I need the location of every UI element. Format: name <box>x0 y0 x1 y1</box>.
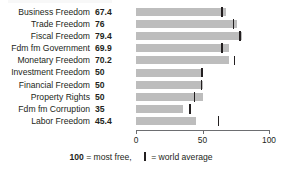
value-bar <box>136 69 203 77</box>
legend-most-free-value: 100 <box>69 152 83 162</box>
category-value: 70.2 <box>95 54 112 66</box>
chart-row: Labor Freedom45.4 <box>0 115 282 127</box>
category-label: Fdm fm Government <box>0 42 90 54</box>
chart-legend: 100 = most free, = world average <box>0 151 282 163</box>
category-label: Fiscal Freedom <box>0 30 90 42</box>
value-bar <box>136 20 237 28</box>
row-plot-area <box>136 66 269 78</box>
category-label: Property Rights <box>0 91 90 103</box>
world-average-tick <box>233 19 235 29</box>
world-average-tick <box>201 68 203 78</box>
world-average-tick <box>218 116 220 126</box>
row-plot-area <box>136 30 269 42</box>
category-value: 35 <box>95 103 105 115</box>
row-plot-area <box>136 103 269 115</box>
category-label: Business Freedom <box>0 6 90 18</box>
value-bar <box>136 44 229 52</box>
row-plot-area <box>136 42 269 54</box>
x-axis-tick-label: 100 <box>262 135 276 145</box>
cropped-title-artifact <box>8 0 112 3</box>
chart-row: Business Freedom67.4 <box>0 6 282 18</box>
value-bar <box>136 105 183 113</box>
category-value: 79.4 <box>95 30 112 42</box>
value-bar <box>136 117 196 125</box>
value-bar <box>136 8 226 16</box>
chart-row: Financial Freedom50 <box>0 79 282 91</box>
world-average-tick <box>221 7 223 17</box>
x-axis-tick <box>269 130 270 134</box>
value-bar <box>136 32 242 40</box>
row-plot-area <box>136 79 269 91</box>
category-label: Trade Freedom <box>0 18 90 30</box>
x-axis-tick-label: 50 <box>198 135 207 145</box>
category-value: 50 <box>95 66 105 78</box>
row-plot-area <box>136 18 269 30</box>
x-axis-tick <box>203 130 204 134</box>
chart-row: Fdm fm Government69.9 <box>0 42 282 54</box>
world-average-tick <box>221 43 223 53</box>
category-label: Labor Freedom <box>0 115 90 127</box>
chart-row: Fdm fm Corruption35 <box>0 103 282 115</box>
chart-row: Monetary Freedom70.2 <box>0 54 282 66</box>
chart-row: Property Rights50 <box>0 91 282 103</box>
category-value: 50 <box>95 91 105 103</box>
world-average-tick <box>201 80 203 90</box>
category-label: Fdm fm Corruption <box>0 103 90 115</box>
row-plot-area <box>136 6 269 18</box>
category-value: 76 <box>95 18 105 30</box>
row-plot-area <box>136 115 269 127</box>
legend-world-average-text: = world average <box>151 152 212 162</box>
x-axis-tick <box>136 130 137 134</box>
x-axis-tick-label: 0 <box>134 135 139 145</box>
world-average-tick <box>239 31 241 41</box>
category-value: 69.9 <box>95 42 112 54</box>
economic-freedom-bar-chart: Business Freedom67.4Trade Freedom76Fisca… <box>0 0 282 172</box>
category-label: Financial Freedom <box>0 79 90 91</box>
category-value: 45.4 <box>95 115 112 127</box>
value-bar <box>136 56 229 64</box>
category-label: Monetary Freedom <box>0 54 90 66</box>
world-average-tick <box>194 92 196 102</box>
value-bar <box>136 93 203 101</box>
row-plot-area <box>136 54 269 66</box>
row-plot-area <box>136 91 269 103</box>
chart-rows: Business Freedom67.4Trade Freedom76Fisca… <box>0 6 282 127</box>
world-average-tick <box>189 104 191 114</box>
category-value: 67.4 <box>95 6 112 18</box>
chart-row: Investment Freedom50 <box>0 66 282 78</box>
category-value: 50 <box>95 79 105 91</box>
world-average-tick <box>234 56 236 66</box>
chart-row: Fiscal Freedom79.4 <box>0 30 282 42</box>
category-label: Investment Freedom <box>0 66 90 78</box>
value-bar <box>136 81 203 89</box>
chart-row: Trade Freedom76 <box>0 18 282 30</box>
legend-most-free-text: = most free, <box>86 152 132 162</box>
world-average-marker-icon <box>144 152 146 161</box>
